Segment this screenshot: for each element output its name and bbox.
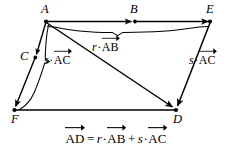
point-label-B: B [130, 3, 138, 16]
label-r-times-AB: r·AB [92, 41, 119, 53]
plus-sign: + [125, 131, 137, 146]
vector-equation: AD=r·AB+s·AC [0, 131, 232, 147]
brace-s-AC [20, 25, 50, 110]
vector-C-to-F [16, 58, 35, 107]
equals-sign: = [84, 131, 96, 146]
point-C [33, 56, 37, 60]
vector-AB-symbol: AB [107, 131, 125, 147]
point-label-F: F [11, 113, 19, 126]
vector-AC-symbol: AC [199, 54, 216, 66]
point-E [208, 19, 212, 23]
vector-A-to-C [36, 22, 46, 55]
label-s-times-AC-left: s·AC [44, 54, 71, 66]
vector-AC-symbol: AC [54, 54, 71, 66]
point-label-A: A [41, 3, 49, 16]
point-label-E: E [206, 3, 214, 16]
scalar-s: s [189, 53, 194, 67]
scalar-s: s [44, 53, 49, 67]
vector-AC-symbol: AC [148, 131, 166, 147]
vector-AD-symbol: AD [65, 131, 84, 147]
label-s-times-AC-right: s·AC [189, 54, 216, 66]
vector-AB-symbol: AB [102, 41, 119, 53]
scalar-r: r [92, 40, 97, 54]
point-label-D: D [173, 113, 182, 126]
brace-r-AB [48, 27, 209, 36]
vector-diagram-figure: A B C D E F r·AB s·AC s·AC AD=r·AB+s·AC [0, 0, 232, 161]
point-B [133, 20, 137, 24]
point-A [44, 19, 48, 23]
point-label-C: C [20, 50, 29, 63]
